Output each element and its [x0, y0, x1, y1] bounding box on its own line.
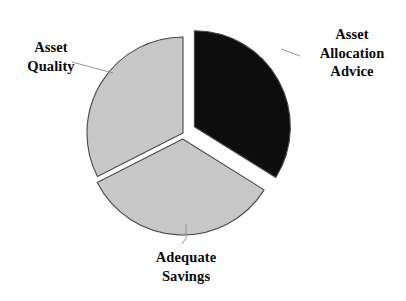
pie-label-line: Adequate: [126, 248, 246, 267]
pie-label-adequate-savings: Adequate Savings: [126, 248, 246, 285]
pie-label-line: Asset: [302, 25, 402, 44]
pie-label-asset-allocation-advice: Asset Allocation Advice: [302, 25, 402, 81]
pie-label-asset-quality: Asset Quality: [8, 38, 94, 75]
pie-label-line: Quality: [8, 57, 94, 76]
leader-line-asset-allocation-advice: [281, 49, 300, 56]
pie-label-line: Advice: [302, 62, 402, 81]
pie-chart: Asset Allocation Advice Asset Quality Ad…: [0, 0, 406, 301]
pie-label-line: Asset: [8, 38, 94, 57]
pie-label-line: Savings: [126, 267, 246, 286]
pie-label-line: Allocation: [302, 44, 402, 63]
